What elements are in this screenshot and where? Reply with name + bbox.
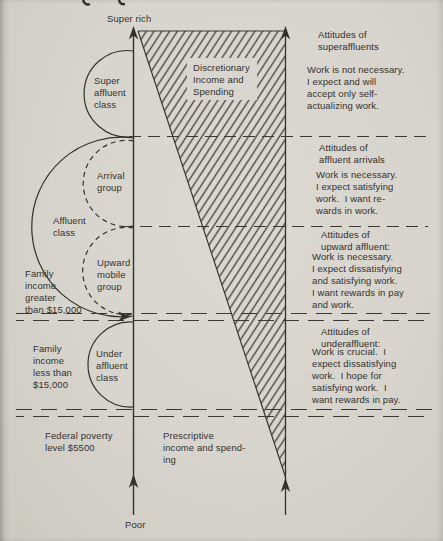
upward-mobile-group-label: Upward mobile group	[97, 257, 130, 293]
cropped-text-fragment	[119, 0, 125, 4]
affluent-class-label: Affluent class	[53, 215, 86, 239]
attitudes-superaffluents-body: Work is not necessary. I expect and will…	[307, 64, 404, 112]
axis-bottom-label: Poor	[125, 519, 145, 531]
attitudes-superaffluents-heading: Attitudes of superaffluents	[318, 29, 379, 53]
axis-top-arrow-icon	[129, 26, 138, 40]
right-axis-top-arrow-icon	[281, 26, 290, 40]
right-axis-bottom-arrow-icon	[281, 478, 290, 492]
attitudes-affluent-arrivals-heading: Attitudes of affluent arrivals	[319, 142, 385, 166]
attitudes-affluent-arrivals-body: Work is necessary. I expect satisfying w…	[316, 169, 397, 217]
cropped-text-fragment	[83, 0, 90, 5]
discretionary-income-label: Discretionary Income and Spending	[193, 62, 250, 98]
arrival-group-label: Arrival group	[97, 170, 125, 194]
super-affluent-class-label: Super affluent class	[94, 75, 126, 111]
affluent-arc-arrow-icon	[118, 312, 132, 322]
attitudes-underaffluent-body: Work is crucial. I expect dissatisfying …	[312, 346, 400, 406]
federal-poverty-level-label: Federal poverty level $5500	[45, 430, 113, 454]
attitudes-upward-affluent-body: Work is necessary. I expect dissatisfyin…	[312, 251, 404, 311]
axis-top-label: Super rich	[107, 13, 151, 25]
attitudes-upward-affluent-heading: Attitudes of upward affluent:	[321, 229, 390, 253]
axis-bottom-arrow-icon	[129, 474, 138, 488]
family-income-less-label: Family income less than $15,000	[33, 343, 72, 391]
scanned-diagram-page: Super rich Poor Super affluent class Arr…	[0, 0, 443, 541]
under-affluent-class-label: Under affluent class	[96, 348, 128, 384]
family-income-greater-label: Family income greater than $15,000	[25, 268, 82, 316]
prescriptive-income-label: Prescriptive income and spend- ing	[163, 430, 246, 466]
